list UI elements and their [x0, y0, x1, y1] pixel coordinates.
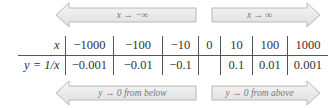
y-cell: −0.001	[65, 56, 114, 76]
y-cell: 0.01	[252, 56, 287, 76]
x-cell: −1000	[65, 36, 114, 56]
arrow-x-to-infinity: x → ∞	[210, 2, 322, 28]
x-cell: −10	[163, 36, 199, 56]
row-label-y: y = 1/x	[18, 56, 65, 76]
table-row-y: y = 1/x −0.001 −0.01 −0.1 0.1 0.01 0.001	[18, 56, 328, 76]
x-cell: 1000	[287, 36, 328, 56]
x-cell: −100	[114, 36, 163, 56]
x-cell: 10	[220, 36, 252, 56]
y-cell	[198, 56, 220, 76]
arrow-label: x → −∞	[69, 2, 196, 28]
arrow-y-from-below: y → 0 from below	[54, 80, 198, 106]
arrow-x-to-neg-infinity: x → −∞	[54, 2, 198, 28]
arrow-label: y → 0 from above	[212, 80, 307, 106]
table-row-x: x −1000 −100 −10 0 10 100 1000	[18, 36, 328, 56]
arrow-label: y → 0 from below	[69, 80, 196, 106]
y-cell: 0.001	[287, 56, 328, 76]
x-cell: 0	[198, 36, 220, 56]
y-cell: −0.1	[163, 56, 199, 76]
arrow-y-from-above: y → 0 from above	[210, 80, 322, 106]
x-cell: 100	[252, 36, 287, 56]
row-label-x: x	[18, 36, 65, 56]
y-cell: −0.01	[114, 56, 163, 76]
values-table: x −1000 −100 −10 0 10 100 1000 y = 1/x −…	[18, 36, 328, 75]
arrow-label: x → ∞	[212, 2, 307, 28]
y-cell: 0.1	[220, 56, 252, 76]
